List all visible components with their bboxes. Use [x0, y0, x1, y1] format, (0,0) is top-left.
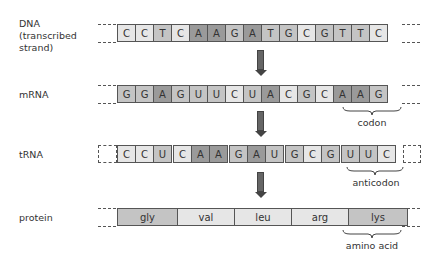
- dna-right-dash-top: [402, 24, 420, 25]
- mrna-strand: GGAGUUCUACGCAAG: [117, 85, 388, 103]
- trna-triplet: CCU: [117, 145, 172, 163]
- protein-label: protein: [19, 212, 53, 224]
- trna-triplet: GCG: [285, 145, 340, 163]
- base-cell: C: [303, 145, 322, 163]
- mrna-left-dash-top: [98, 85, 116, 86]
- amino-acid-cell: lys: [348, 208, 408, 226]
- base-cell: U: [207, 85, 226, 103]
- dna-left-dash-top: [98, 24, 116, 25]
- base-cell: C: [369, 24, 388, 42]
- base-cell: C: [135, 145, 154, 163]
- mrna-right-dash-top: [402, 85, 420, 86]
- trna-triplet: CAA: [173, 145, 228, 163]
- protein-strand: glyvalleuarglys: [117, 208, 408, 226]
- base-cell: U: [153, 145, 172, 163]
- base-cell: U: [243, 85, 262, 103]
- mrna-left-dash-bottom: [98, 103, 116, 104]
- amino-acid-cell: arg: [291, 208, 349, 226]
- base-cell: G: [135, 85, 154, 103]
- mrna-right-dash-bottom: [402, 103, 420, 104]
- base-cell: C: [297, 24, 316, 42]
- base-cell: U: [265, 145, 284, 163]
- codon-brace-icon: [342, 106, 402, 116]
- dna-label-line2: (transcribed: [19, 30, 77, 42]
- anticodon-label: anticodon: [336, 177, 416, 188]
- amino-acid-cell: val: [177, 208, 235, 226]
- base-cell: A: [351, 85, 370, 103]
- down-arrow-icon: [255, 172, 266, 198]
- base-cell: T: [333, 24, 352, 42]
- dna-label-line1: DNA: [19, 18, 77, 30]
- base-cell: C: [279, 85, 298, 103]
- protein-left-dash-bottom: [98, 226, 116, 227]
- amino-acid-label: amino acid: [332, 240, 412, 251]
- trna-label: tRNA: [19, 149, 43, 161]
- codon-label: codon: [342, 117, 402, 128]
- base-cell: G: [285, 145, 304, 163]
- base-cell: T: [153, 24, 172, 42]
- down-arrow-icon: [255, 50, 266, 76]
- base-cell: U: [359, 145, 378, 163]
- dna-label: DNA (transcribed strand): [19, 18, 77, 54]
- base-cell: C: [315, 85, 334, 103]
- base-cell: A: [189, 24, 208, 42]
- base-cell: A: [243, 24, 262, 42]
- base-cell: G: [297, 85, 316, 103]
- trna-triplet: GAU: [229, 145, 284, 163]
- base-cell: A: [207, 24, 226, 42]
- base-cell: T: [261, 24, 280, 42]
- base-cell: C: [173, 145, 192, 163]
- dna-left-dash-bottom: [98, 42, 116, 43]
- base-cell: A: [209, 145, 228, 163]
- down-arrow-icon: [255, 111, 266, 137]
- base-cell: C: [135, 24, 154, 42]
- protein-left-dash-top: [98, 208, 116, 209]
- mrna-label: mRNA: [19, 89, 48, 101]
- trna-triplet: UUC: [341, 145, 396, 163]
- amino-acid-cell: leu: [234, 208, 292, 226]
- base-cell: A: [261, 85, 280, 103]
- base-cell: A: [191, 145, 210, 163]
- base-cell: T: [351, 24, 370, 42]
- base-cell: A: [247, 145, 266, 163]
- base-cell: C: [377, 145, 396, 163]
- protein-right-dash-bottom: [402, 226, 420, 227]
- base-cell: U: [189, 85, 208, 103]
- base-cell: A: [153, 85, 172, 103]
- protein-right-dash-top: [402, 208, 420, 209]
- base-cell: G: [117, 85, 136, 103]
- base-cell: A: [333, 85, 352, 103]
- base-cell: G: [229, 145, 248, 163]
- base-cell: G: [279, 24, 298, 42]
- base-cell: G: [369, 85, 388, 103]
- dna-right-dash-bottom: [402, 42, 420, 43]
- amino-acid-cell: gly: [117, 208, 178, 226]
- trna-right-dashed-box: [403, 145, 421, 163]
- dna-label-line3: strand): [19, 42, 77, 54]
- base-cell: C: [171, 24, 190, 42]
- base-cell: U: [341, 145, 360, 163]
- dna-strand: CCTCAAGATGCGTTC: [117, 24, 388, 42]
- base-cell: G: [315, 24, 334, 42]
- base-cell: G: [321, 145, 340, 163]
- base-cell: C: [225, 85, 244, 103]
- base-cell: G: [225, 24, 244, 42]
- base-cell: C: [117, 145, 136, 163]
- base-cell: C: [117, 24, 136, 42]
- base-cell: G: [171, 85, 190, 103]
- amino-acid-brace-icon: [342, 229, 402, 239]
- trna-left-dashed-box: [98, 145, 117, 163]
- anticodon-brace-icon: [346, 166, 404, 176]
- trna-strand: CCUCAAGAUGCGUUC: [117, 145, 397, 163]
